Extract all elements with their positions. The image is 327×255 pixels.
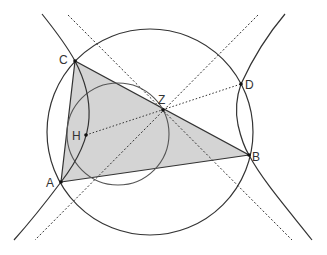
- point-c: [73, 59, 77, 63]
- point-b: [247, 153, 251, 157]
- label-c: C: [59, 53, 68, 67]
- label-z: Z: [158, 93, 165, 107]
- point-a: [59, 180, 63, 184]
- label-d: D: [245, 78, 254, 92]
- point-d: [239, 82, 243, 86]
- geometry-diagram: C Z D H B A: [0, 0, 327, 255]
- label-a: A: [46, 176, 54, 190]
- point-h: [84, 133, 88, 137]
- label-h: H: [72, 129, 81, 143]
- label-b: B: [252, 150, 260, 164]
- hyperbola-right-branch: [236, 14, 312, 240]
- point-z: [161, 108, 165, 112]
